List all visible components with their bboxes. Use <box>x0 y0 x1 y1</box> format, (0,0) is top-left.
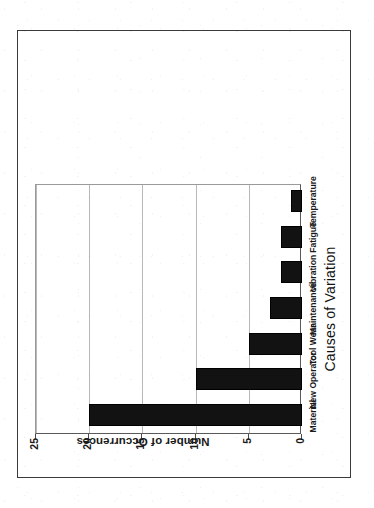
rotated-chart-wrapper: Number of Occurrences 0510152025 Materia… <box>17 30 351 478</box>
bar <box>281 261 302 283</box>
category-label: Temperature <box>308 176 318 227</box>
bar <box>196 368 302 390</box>
category-axis-title: Causes of Variation <box>322 184 338 434</box>
bar <box>281 226 302 248</box>
value-tick-label: 20 <box>81 438 93 458</box>
bar <box>270 297 302 319</box>
bar <box>249 333 302 355</box>
gridline <box>89 185 90 433</box>
category-label: Vibration <box>308 255 318 292</box>
gridline <box>196 185 197 433</box>
gridline <box>142 185 143 433</box>
value-tick-label: 25 <box>28 438 40 458</box>
plot-area <box>35 184 301 434</box>
chart-inner: Number of Occurrences 0510152025 Materia… <box>17 30 351 478</box>
value-tick-label: 5 <box>241 438 253 458</box>
value-tick-label: 0 <box>294 438 306 458</box>
bar <box>291 190 302 212</box>
value-tick-label: 10 <box>188 438 200 458</box>
bar <box>89 404 302 426</box>
scanned-page: Number of Occurrences 0510152025 Materia… <box>0 0 374 508</box>
bar-chart: Number of Occurrences 0510152025 Materia… <box>17 30 351 478</box>
gridline <box>249 185 250 433</box>
value-tick-label: 15 <box>134 438 146 458</box>
gridline <box>36 185 37 433</box>
